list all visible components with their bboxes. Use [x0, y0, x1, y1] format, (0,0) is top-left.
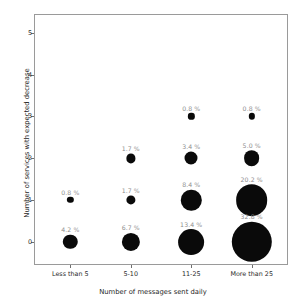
data-point-bubble	[178, 229, 204, 255]
data-point-bubble	[249, 113, 255, 119]
data-point-bubble	[67, 197, 73, 203]
data-point-bubble	[185, 152, 198, 165]
x-tick-mark	[131, 265, 132, 268]
x-tick-label: More than 25	[230, 270, 273, 278]
data-point-bubble	[181, 190, 201, 210]
data-point-label: 3.4 %	[182, 143, 200, 150]
plot-area: 0.8 %4.2 %1.7 %1.7 %6.7 %0.8 %3.4 %8.4 %…	[34, 14, 288, 265]
data-point-label: 1.7 %	[122, 187, 140, 194]
data-point-bubble	[63, 235, 77, 249]
data-point-label: 1.7 %	[122, 145, 140, 152]
data-point-label: 4.2 %	[61, 226, 79, 233]
data-point-bubble	[236, 184, 268, 216]
x-tick-mark	[70, 265, 71, 268]
data-point-bubble	[244, 150, 260, 166]
data-point-label: 13.4 %	[180, 221, 202, 228]
data-point-label: 0.8 %	[61, 189, 79, 196]
y-tick-label: 5	[2, 29, 32, 37]
data-point-bubble	[188, 113, 194, 119]
x-tick-mark	[191, 265, 192, 268]
x-tick-label: 5-10	[123, 270, 138, 278]
data-point-label: 6.7 %	[122, 224, 140, 231]
bubble-chart-figure: 0.8 %4.2 %1.7 %1.7 %6.7 %0.8 %3.4 %8.4 %…	[0, 0, 306, 308]
data-point-bubble	[122, 233, 140, 251]
data-point-label: 0.8 %	[182, 105, 200, 112]
data-point-bubble	[126, 196, 135, 205]
data-point-bubble	[232, 222, 272, 262]
y-tick-label: 0	[2, 238, 32, 246]
x-tick-label: 11-25	[182, 270, 201, 278]
data-point-label: 32.8 %	[241, 213, 263, 220]
x-axis-title: Number of messages sent daily	[0, 288, 306, 296]
data-point-label: 8.4 %	[182, 181, 200, 188]
data-point-bubble	[126, 154, 135, 163]
data-point-label: 5.0 %	[243, 142, 261, 149]
x-tick-label: Less than 5	[52, 270, 89, 278]
data-point-label: 0.8 %	[243, 105, 261, 112]
data-point-label: 20.2 %	[241, 176, 263, 183]
y-axis-title: Number of services with expected decreas…	[23, 63, 31, 223]
x-tick-mark	[252, 265, 253, 268]
